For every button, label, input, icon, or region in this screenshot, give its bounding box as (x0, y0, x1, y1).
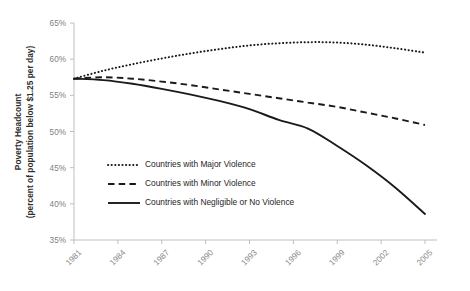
y-tick-label: 50% (50, 128, 66, 137)
y-tick-label: 35% (50, 236, 66, 245)
legend-label: Countries with Minor Violence (145, 178, 256, 188)
y-axis-title-line2: (percent of population below $1.25 per d… (25, 45, 35, 218)
chart-background (0, 0, 470, 291)
legend-label: Countries with Major Violence (145, 159, 256, 169)
legend-label: Countries with Negligible or No Violence (145, 197, 295, 207)
y-tick-label: 55% (50, 91, 66, 100)
chart-plot-area: Poverty Headcount (percent of population… (0, 0, 470, 291)
y-tick-label: 65% (50, 19, 66, 28)
y-axis-title-line1: Poverty Headcount (13, 94, 23, 171)
y-tick-label: 60% (50, 55, 66, 64)
poverty-headcount-line-chart: Poverty Headcount (percent of population… (0, 0, 470, 291)
y-tick-label: 40% (50, 200, 66, 209)
y-tick-label: 45% (50, 164, 66, 173)
